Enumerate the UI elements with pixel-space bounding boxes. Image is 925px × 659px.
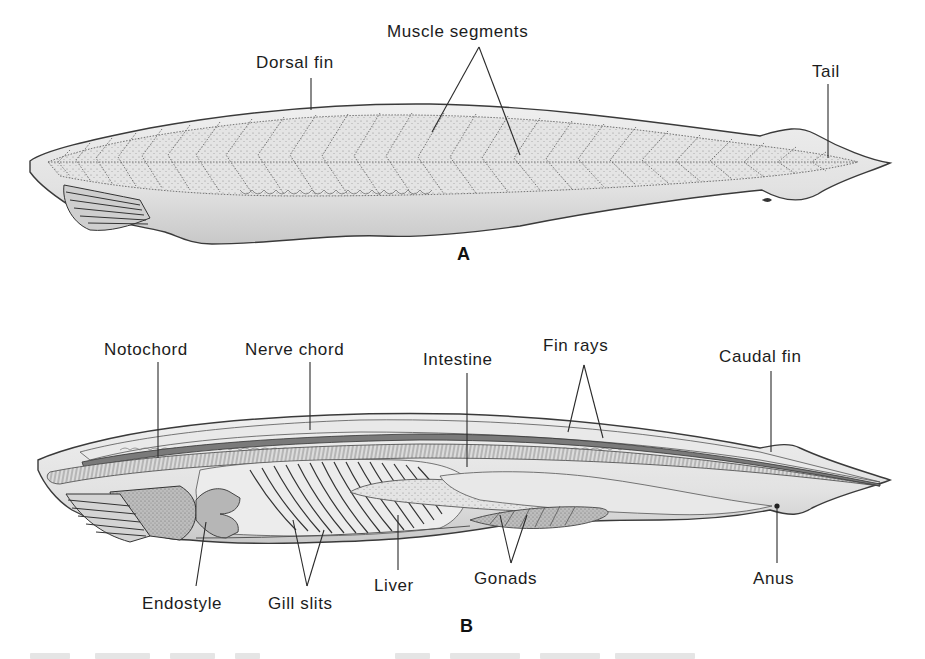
panel-a-body (30, 104, 890, 244)
label-liver: Liver (374, 576, 414, 596)
label-anus: Anus (753, 569, 794, 589)
panel-b-body (38, 414, 890, 544)
label-tail: Tail (812, 62, 840, 82)
label-muscle-segments: Muscle segments (387, 22, 528, 42)
panel-letter-b: B (460, 616, 473, 637)
label-intestine: Intestine (423, 350, 493, 370)
figure-artwork (0, 0, 925, 659)
anus-dot (774, 503, 779, 508)
clipped-caption (0, 651, 925, 659)
panel-letter-a: A (457, 244, 470, 265)
lancelet-figure: Dorsal fin Muscle segments Tail A Notoch… (0, 0, 925, 659)
label-fin-rays: Fin rays (543, 336, 608, 356)
label-gill-slits: Gill slits (268, 594, 333, 614)
label-gonads: Gonads (474, 569, 537, 589)
label-notochord: Notochord (104, 340, 188, 360)
label-caudal-fin: Caudal fin (719, 347, 802, 367)
label-nerve-chord: Nerve chord (245, 340, 344, 360)
label-dorsal-fin: Dorsal fin (256, 53, 334, 73)
label-endostyle: Endostyle (142, 594, 222, 614)
